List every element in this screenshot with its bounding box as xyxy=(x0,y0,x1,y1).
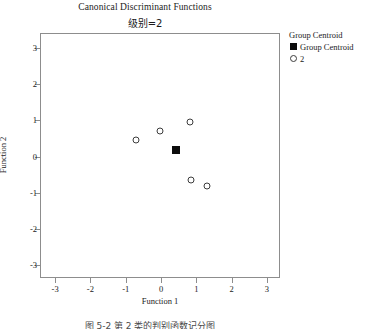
x-axis-tick-label: -2 xyxy=(87,284,94,294)
plot-area: -3-2-10123-3-2-10123 xyxy=(41,34,279,277)
x-axis-title: Function 1 xyxy=(40,296,280,306)
centroid-marker xyxy=(172,146,180,154)
x-axis-tick-label: 1 xyxy=(194,284,198,294)
data-point-marker xyxy=(186,119,193,126)
data-point-marker xyxy=(203,183,210,190)
y-axis-tick-label: -2 xyxy=(30,224,37,234)
legend-item-group-centroid[interactable]: Group Centroid xyxy=(289,41,368,52)
y-axis-title: Function 2 xyxy=(0,137,8,174)
legend-item-group-2[interactable]: 2 xyxy=(289,53,368,64)
open-circle-icon xyxy=(290,55,297,62)
legend: Group Centroid Group Centroid 2 xyxy=(289,30,368,64)
legend-item-label: Group Centroid xyxy=(300,42,354,52)
x-axis-tick-label: 2 xyxy=(229,284,233,294)
plot-frame: -3-2-10123-3-2-10123 xyxy=(40,33,280,278)
y-axis-tick-label: -3 xyxy=(30,260,37,270)
data-point-marker xyxy=(132,137,139,144)
y-axis-tick-label: 2 xyxy=(33,79,37,89)
y-axis-tick-label: 3 xyxy=(33,43,37,53)
x-axis-tick-label: -3 xyxy=(52,284,59,294)
chart-root: Canonical Discriminant Functions 级别=2 Fu… xyxy=(0,0,368,329)
x-axis-tick-label: -1 xyxy=(122,284,129,294)
legend-item-label: 2 xyxy=(300,54,304,64)
y-axis-tick-label: -1 xyxy=(30,188,37,198)
y-axis-tick-label: 1 xyxy=(33,115,37,125)
x-axis-tick-label: 3 xyxy=(265,284,269,294)
filled-square-icon xyxy=(290,43,297,50)
legend-title: Group Centroid xyxy=(289,30,368,40)
x-axis-tick xyxy=(267,277,268,283)
x-axis-tick xyxy=(232,277,233,283)
x-axis-tick xyxy=(196,277,197,283)
x-axis-tick xyxy=(55,277,56,283)
x-axis-tick xyxy=(126,277,127,283)
chart-title: Canonical Discriminant Functions xyxy=(0,2,290,12)
y-axis-tick-label: 0 xyxy=(33,152,37,162)
x-axis-tick-label: 0 xyxy=(159,284,163,294)
x-axis-tick xyxy=(90,277,91,283)
chart-subtitle: 级别=2 xyxy=(0,15,290,30)
data-point-marker xyxy=(157,128,164,135)
figure-caption: 图 5-2 第 2 类的判别函数记分图 xyxy=(0,321,300,329)
data-point-marker xyxy=(188,176,195,183)
x-axis-tick xyxy=(161,277,162,283)
